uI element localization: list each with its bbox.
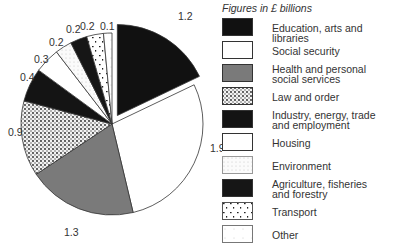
legend-title: Figures in £ billions (222, 2, 312, 14)
legend-item-law-and-order: Law and order (222, 87, 400, 107)
slice-value-label: 1.2 (178, 10, 193, 22)
legend-item-health: Health and personal social services (222, 64, 400, 84)
swatch-grey-icon (222, 64, 253, 82)
legend-item-housing: Housing (222, 133, 400, 153)
legend-label: Health and personal social services (272, 64, 366, 84)
legend-label: Other (272, 230, 298, 240)
legend-item-agriculture: Agriculture, fisheries and forestry (222, 179, 400, 199)
slice-value-label: 0.1 (100, 20, 115, 32)
legend-item-education: Education, arts and libraries (222, 18, 400, 38)
slice-value-label: 1.3 (64, 226, 79, 238)
legend-item-environment: Environment (222, 156, 400, 176)
pie-chart: 1.21.91.30.90.40.30.20.20.20.1 (0, 0, 222, 250)
slice-value-label: 0.2 (80, 20, 95, 32)
legend-label: Law and order (272, 92, 339, 102)
swatch-solid-black-icon (222, 110, 253, 128)
swatch-sparse-dashes-icon (222, 202, 253, 220)
legend-item-social-security: Social security (222, 41, 400, 61)
legend-label: Housing (272, 138, 311, 148)
legend-label: Social security (272, 46, 340, 56)
legend-label: Industry, energy, trade and employment (272, 110, 376, 130)
swatch-solid-black-icon (222, 179, 253, 197)
legend-item-transport: Transport (222, 202, 400, 222)
slice-value-label: 0.3 (34, 53, 49, 65)
swatch-light-dots-icon (222, 156, 253, 174)
legend-label: Environment (272, 161, 331, 171)
slice-value-label: 0.9 (8, 126, 23, 138)
swatch-dense-dots-icon (222, 87, 253, 105)
swatch-other-icon (222, 225, 253, 243)
slice-value-label: 0.2 (66, 23, 81, 35)
legend-item-other: Other (222, 225, 400, 245)
legend-item-industry: Industry, energy, trade and employment (222, 110, 400, 130)
swatch-white-icon (222, 133, 253, 151)
swatch-white-icon (222, 41, 253, 59)
swatch-solid-black-icon (222, 18, 253, 36)
legend-label: Education, arts and libraries (272, 23, 400, 43)
slice-value-label: 0.4 (20, 71, 35, 83)
slice-value-label: 1.9 (210, 142, 222, 154)
legend-label: Transport (272, 207, 317, 217)
slice-value-label: 0.2 (49, 36, 64, 48)
legend-label: Agriculture, fisheries and forestry (272, 179, 367, 199)
